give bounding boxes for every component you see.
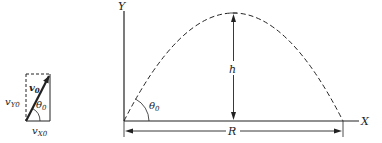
height-label: h xyxy=(229,63,236,76)
height-arrow-top xyxy=(231,14,236,22)
trajectory-diagram: Y X θ0 h R xyxy=(118,0,370,138)
angle-arc xyxy=(33,109,41,122)
y-axis-label: Y xyxy=(118,0,127,13)
velocity-component-diagram: v0 θ0 vY0 vX0 xyxy=(5,74,50,138)
range-arrow-right xyxy=(334,129,342,134)
vy-label: vY0 xyxy=(5,96,20,109)
range-label: R xyxy=(227,125,236,138)
vx-label: vX0 xyxy=(32,125,48,138)
x-axis-label: X xyxy=(360,115,370,128)
range-arrow-left xyxy=(125,129,133,134)
velocity-label: v0 xyxy=(29,82,40,95)
launch-angle-arc xyxy=(136,99,150,121)
launch-angle-label: θ0 xyxy=(149,100,160,113)
projectile-figure: v0 θ0 vY0 vX0 Y X θ0 h R xyxy=(0,0,382,143)
angle-label: θ0 xyxy=(36,99,47,112)
height-arrow-bottom xyxy=(231,112,236,120)
